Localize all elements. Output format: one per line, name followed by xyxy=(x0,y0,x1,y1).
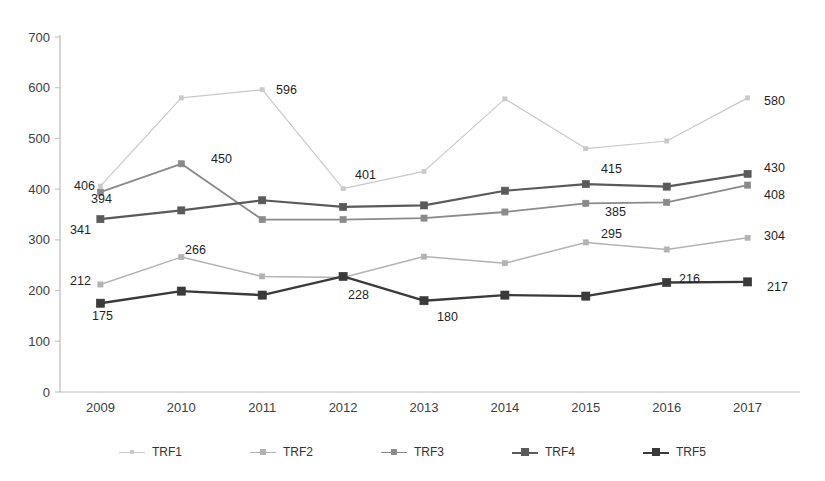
data-point-marker xyxy=(179,96,183,100)
series-trf1 xyxy=(98,88,749,191)
data-point-marker xyxy=(98,184,102,188)
label-trf2-2010: 266 xyxy=(185,243,206,257)
data-point-marker xyxy=(97,216,104,223)
series-line xyxy=(100,174,747,219)
x-tick-label: 2009 xyxy=(86,400,115,415)
data-point-marker xyxy=(420,202,427,209)
data-point-marker xyxy=(503,97,507,101)
label-trf2-2015: 295 xyxy=(601,227,622,241)
data-point-marker xyxy=(664,199,670,205)
data-point-marker xyxy=(502,209,508,215)
chart-legend: TRF1TRF2TRF3TRF4TRF5 xyxy=(0,440,825,464)
data-point-marker xyxy=(583,200,589,206)
data-point-marker xyxy=(583,240,588,245)
x-tick-label: 2010 xyxy=(167,400,196,415)
x-tick-label: 2013 xyxy=(410,400,439,415)
label-trf3-2017: 408 xyxy=(764,188,785,202)
label-trf5-2016: 216 xyxy=(679,272,700,286)
label-trf1-2009: 406 xyxy=(74,179,95,193)
data-point-marker xyxy=(178,207,185,214)
label-trf5-2013: 180 xyxy=(437,310,458,324)
legend-marker-icon xyxy=(512,447,538,457)
data-point-marker xyxy=(178,161,184,167)
label-trf5-2012: 228 xyxy=(348,288,369,302)
data-point-marker xyxy=(340,203,347,210)
label-trf4-2009: 341 xyxy=(70,223,91,237)
y-tick-label: 400 xyxy=(28,182,50,197)
axes: 0100200300400500600700200920102011201220… xyxy=(28,30,800,416)
x-tick-label: 2012 xyxy=(329,400,358,415)
y-tick-label: 0 xyxy=(43,385,50,400)
data-point-marker xyxy=(421,254,426,259)
legend-item-trf5[interactable]: TRF5 xyxy=(643,445,706,459)
legend-item-trf1[interactable]: TRF1 xyxy=(119,445,182,459)
data-point-marker xyxy=(582,181,589,188)
data-point-marker xyxy=(259,217,265,223)
data-point-marker xyxy=(502,261,507,266)
data-point-marker xyxy=(98,282,103,287)
label-trf3-2010: 450 xyxy=(211,152,232,166)
data-point-marker xyxy=(745,235,750,240)
data-point-marker xyxy=(422,169,426,173)
data-point-marker xyxy=(260,88,264,92)
x-tick-label: 2015 xyxy=(571,400,600,415)
data-point-marker xyxy=(501,291,509,299)
label-trf1-2011: 596 xyxy=(276,83,297,97)
data-point-marker xyxy=(663,183,670,190)
series-trf5 xyxy=(96,272,751,307)
data-point-marker xyxy=(501,187,508,194)
x-tick-label: 2016 xyxy=(652,400,681,415)
legend-marker-icon xyxy=(119,447,145,457)
label-trf1-2012: 401 xyxy=(355,168,376,182)
legend-marker-icon xyxy=(643,447,669,457)
legend-marker-icon xyxy=(250,447,276,457)
legend-label: TRF4 xyxy=(545,445,575,459)
data-point-marker xyxy=(259,197,266,204)
legend-item-trf4[interactable]: TRF4 xyxy=(512,445,575,459)
legend-label: TRF3 xyxy=(414,445,444,459)
legend-label: TRF1 xyxy=(152,445,182,459)
data-point-marker xyxy=(177,287,185,295)
data-point-marker xyxy=(339,272,347,280)
label-trf3-2015: 385 xyxy=(605,205,626,219)
y-tick-label: 700 xyxy=(28,30,50,45)
legend-label: TRF5 xyxy=(676,445,706,459)
x-tick-label: 2011 xyxy=(248,400,276,415)
data-point-marker xyxy=(744,170,751,177)
label-trf3-2009: 394 xyxy=(91,192,112,206)
x-tick-label: 2014 xyxy=(490,400,519,415)
label-trf2-2017: 304 xyxy=(764,229,785,243)
label-trf4-2017: 430 xyxy=(764,161,785,175)
chart-canvas: 0100200300400500600700200920102011201220… xyxy=(0,0,825,481)
legend-item-trf3[interactable]: TRF3 xyxy=(381,445,444,459)
data-point-marker xyxy=(421,215,427,221)
data-point-marker xyxy=(420,297,428,305)
data-point-marker xyxy=(745,182,751,188)
label-trf5-2009: 175 xyxy=(92,309,113,323)
legend-item-trf2[interactable]: TRF2 xyxy=(250,445,313,459)
y-tick-label: 100 xyxy=(28,334,50,349)
y-tick-label: 300 xyxy=(28,232,50,247)
label-trf2-2009: 212 xyxy=(70,274,91,288)
y-tick-label: 200 xyxy=(28,283,50,298)
line-chart: 0100200300400500600700200920102011201220… xyxy=(0,0,825,481)
data-point-marker xyxy=(744,278,752,286)
y-tick-label: 500 xyxy=(28,131,50,146)
legend-label: TRF2 xyxy=(283,445,313,459)
data-point-marker xyxy=(179,255,184,260)
data-point-marker xyxy=(665,139,669,143)
label-trf5-2017: 217 xyxy=(767,280,788,294)
data-point-marker xyxy=(341,187,345,191)
data-point-marker xyxy=(340,217,346,223)
data-point-marker xyxy=(664,247,669,252)
data-point-marker xyxy=(260,274,265,279)
data-point-marker xyxy=(582,292,590,300)
y-tick-label: 600 xyxy=(28,80,50,95)
data-point-marker xyxy=(96,299,104,307)
data-point-marker xyxy=(746,96,750,100)
label-trf4-2015: 415 xyxy=(601,162,622,176)
data-point-marker xyxy=(584,147,588,151)
data-point-marker xyxy=(258,291,266,299)
legend-marker-icon xyxy=(381,447,407,457)
x-tick-label: 2017 xyxy=(733,400,762,415)
